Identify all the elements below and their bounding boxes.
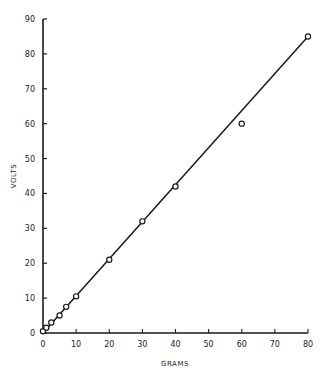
data-point — [305, 34, 310, 39]
data-point — [64, 304, 69, 309]
data-point — [173, 184, 178, 189]
y-tick-label: 30 — [25, 224, 35, 233]
chart: 0102030405060708090 01020304050607080 GR… — [0, 0, 327, 379]
y-tick-label: 60 — [25, 120, 35, 129]
y-tick-label: 90 — [25, 15, 35, 24]
data-point — [57, 313, 62, 318]
y-tick-label: 70 — [25, 85, 35, 94]
data-point — [44, 325, 49, 330]
x-axis-title: GRAMS — [161, 360, 189, 368]
x-tick-label: 60 — [237, 340, 247, 349]
data-point — [239, 121, 244, 126]
x-tick-label: 70 — [270, 340, 280, 349]
x-tick-label: 30 — [137, 340, 147, 349]
x-tick-label: 10 — [71, 340, 81, 349]
x-tick-label: 40 — [170, 340, 180, 349]
y-tick-label: 0 — [30, 329, 35, 338]
y-tick-label: 40 — [25, 189, 35, 198]
x-tick-label: 20 — [104, 340, 114, 349]
axes — [43, 19, 308, 333]
x-tick-label: 0 — [40, 340, 45, 349]
y-axis-title: VOLTS — [10, 164, 18, 188]
x-axis-ticks: 01020304050607080 — [40, 329, 313, 349]
data-point — [49, 320, 54, 325]
x-tick-label: 50 — [204, 340, 214, 349]
x-tick-label: 80 — [303, 340, 313, 349]
data-point — [74, 294, 79, 299]
y-tick-label: 10 — [25, 294, 35, 303]
data-point — [140, 219, 145, 224]
data-point — [107, 257, 112, 262]
y-tick-label: 20 — [25, 259, 35, 268]
y-tick-label: 80 — [25, 50, 35, 59]
y-tick-label: 50 — [25, 155, 35, 164]
